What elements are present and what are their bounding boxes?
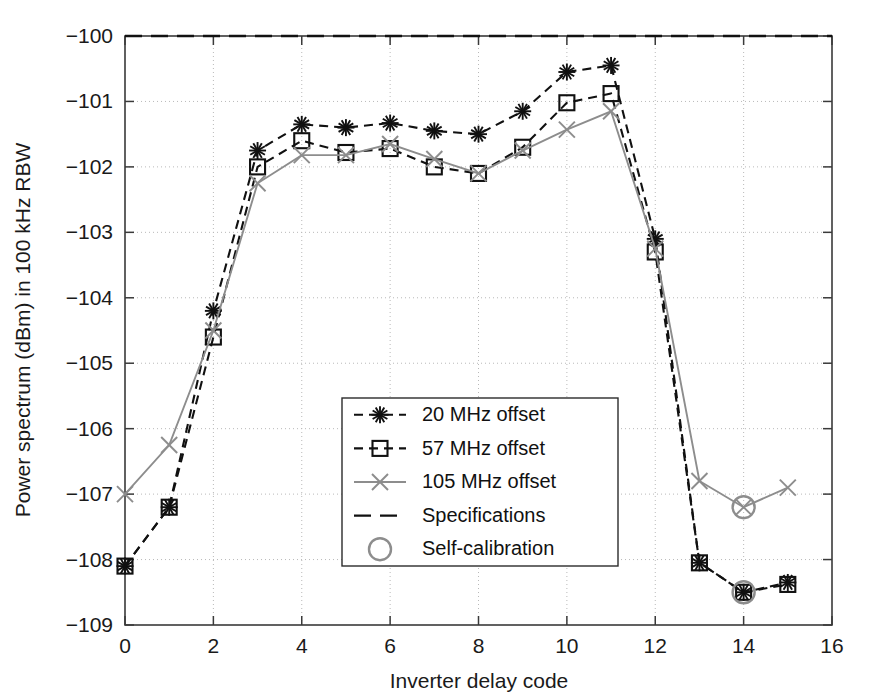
legend-label: Self-calibration bbox=[422, 537, 554, 559]
x-tick-label: 2 bbox=[208, 634, 220, 657]
y-tick-label: −100 bbox=[66, 24, 113, 47]
legend-label: 105 MHz offset bbox=[422, 470, 557, 492]
x-tick-label: 4 bbox=[296, 634, 308, 657]
y-tick-label: −104 bbox=[66, 286, 114, 309]
legend-label: Specifications bbox=[422, 504, 545, 526]
y-tick-label: −108 bbox=[66, 548, 113, 571]
x-tick-label: 12 bbox=[644, 634, 667, 657]
x-tick-label: 6 bbox=[384, 634, 396, 657]
y-tick-label: −106 bbox=[66, 417, 113, 440]
legend: 20 MHz offset57 MHz offset105 MHz offset… bbox=[342, 398, 618, 566]
x-tick-label: 10 bbox=[555, 634, 578, 657]
y-axis-title: Power spectrum (dBm) in 100 kHz RBW bbox=[11, 143, 34, 518]
x-axis-title: Inverter delay code bbox=[390, 669, 569, 692]
legend-label: 20 MHz offset bbox=[422, 403, 545, 425]
y-tick-label: −101 bbox=[66, 89, 113, 112]
x-tick-label: 16 bbox=[820, 634, 843, 657]
y-tick-label: −105 bbox=[66, 351, 113, 374]
x-tick-label: 0 bbox=[119, 634, 131, 657]
y-tick-label: −109 bbox=[66, 613, 113, 636]
y-tick-label: −103 bbox=[66, 220, 113, 243]
power-spectrum-chart: −109−108−107−106−105−104−103−102−101−100… bbox=[0, 0, 869, 700]
x-tick-label: 8 bbox=[473, 634, 485, 657]
legend-label: 57 MHz offset bbox=[422, 437, 545, 459]
chart-figure: −109−108−107−106−105−104−103−102−101−100… bbox=[0, 0, 869, 700]
y-tick-label: −102 bbox=[66, 155, 113, 178]
y-tick-label: −107 bbox=[66, 482, 113, 505]
x-tick-label: 14 bbox=[732, 634, 756, 657]
